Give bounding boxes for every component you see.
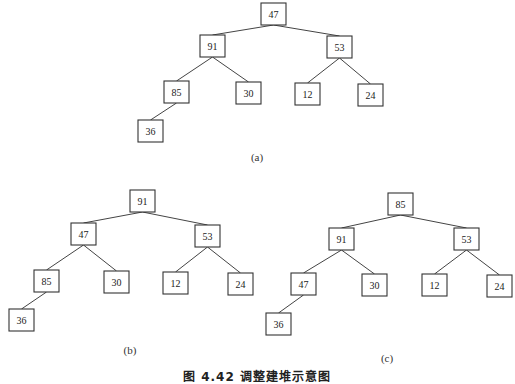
tree-edge <box>47 245 84 270</box>
node-value: 30 <box>112 277 122 288</box>
tree-edge <box>274 25 340 36</box>
tree-node: 36 <box>266 313 291 335</box>
node-value: 12 <box>171 278 181 289</box>
node-value: 12 <box>303 89 313 100</box>
node-value: 85 <box>42 276 52 287</box>
subfigure-label-c: (c) <box>381 352 393 364</box>
tree-node: 12 <box>163 272 188 294</box>
tree-node: 47 <box>71 223 96 245</box>
tree-edge <box>401 215 467 228</box>
nodes-layer: 4791538530122436914753853012243685915347… <box>9 3 512 335</box>
tree-node: 30 <box>362 274 387 296</box>
tree-c-nodes: 8591534730122436 <box>266 193 512 335</box>
node-value: 91 <box>337 234 347 245</box>
node-value: 24 <box>236 279 246 290</box>
tree-node: 53 <box>454 228 479 250</box>
node-value: 47 <box>79 229 89 240</box>
node-value: 36 <box>146 126 156 137</box>
tree-edge <box>304 250 342 273</box>
tree-edge <box>143 212 208 225</box>
tree-node: 91 <box>130 190 155 212</box>
tree-node: 91 <box>329 228 354 250</box>
node-value: 36 <box>274 319 284 330</box>
node-value: 53 <box>203 231 213 242</box>
tree-edge <box>176 247 208 272</box>
tree-node: 47 <box>291 273 316 295</box>
tree-edge <box>342 215 401 228</box>
tree-edge <box>213 57 249 82</box>
tree-edge <box>84 212 143 223</box>
tree-node: 47 <box>261 3 286 25</box>
node-value: 30 <box>244 88 254 99</box>
tree-node: 36 <box>138 120 163 142</box>
tree-node: 85 <box>388 193 413 215</box>
node-value: 47 <box>269 9 279 20</box>
node-value: 91 <box>208 41 218 52</box>
tree-node: 24 <box>228 273 253 295</box>
tree-edge <box>467 250 500 275</box>
tree-edge <box>84 245 117 271</box>
tree-node: 85 <box>164 81 189 103</box>
node-value: 24 <box>366 90 376 101</box>
tree-node: 53 <box>195 225 220 247</box>
node-value: 24 <box>495 281 505 292</box>
tree-node: 85 <box>34 270 59 292</box>
figure-caption: 图 4.42 调整建堆示意图 <box>183 367 331 384</box>
tree-node: 24 <box>487 275 512 297</box>
node-value: 30 <box>370 280 380 291</box>
tree-node: 12 <box>295 83 320 105</box>
tree-node: 30 <box>236 82 261 104</box>
node-value: 53 <box>335 42 345 53</box>
tree-edge <box>22 292 47 309</box>
subfigure-label-a: (a) <box>251 151 263 163</box>
tree-a-nodes: 4791538530122436 <box>138 3 383 142</box>
node-value: 85 <box>172 87 182 98</box>
tree-node: 30 <box>104 271 129 293</box>
node-value: 85 <box>396 199 406 210</box>
edges-layer <box>22 25 500 313</box>
node-value: 36 <box>17 315 27 326</box>
tree-node: 36 <box>9 309 34 331</box>
tree-edge <box>279 295 304 313</box>
tree-edge <box>151 103 177 120</box>
tree-node: 53 <box>327 36 352 58</box>
node-value: 47 <box>299 279 309 290</box>
node-value: 91 <box>138 196 148 207</box>
tree-edge <box>435 250 467 274</box>
subfigure-label-b: (b) <box>124 344 137 356</box>
node-value: 53 <box>462 234 472 245</box>
tree-edge <box>340 58 371 84</box>
tree-b-nodes: 9147538530122436 <box>9 190 253 331</box>
tree-node: 91 <box>200 35 225 57</box>
tree-edge <box>308 58 340 83</box>
tree-edge <box>213 25 274 35</box>
tree-node: 24 <box>358 84 383 106</box>
tree-node: 12 <box>422 274 447 296</box>
tree-edge <box>342 250 375 274</box>
tree-edge <box>177 57 213 81</box>
tree-edge <box>208 247 241 273</box>
node-value: 12 <box>430 280 440 291</box>
